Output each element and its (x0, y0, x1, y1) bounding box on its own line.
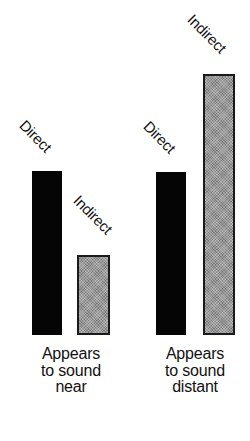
caption-distant: Appears to sound distant (145, 346, 245, 396)
bar-label-indirect-distant: Indirect (185, 11, 229, 55)
bar-direct-near (32, 171, 62, 335)
caption-near-line-2: to sound (21, 363, 121, 380)
bar-indirect-near (77, 255, 110, 335)
bar-label-indirect-near: Indirect (71, 192, 115, 236)
bar-direct-distant (156, 172, 186, 335)
caption-distant-line-1: Appears (145, 346, 245, 363)
caption-distant-line-2: to sound (145, 363, 245, 380)
caption-near-line-3: near (21, 379, 121, 396)
caption-near: Appears to sound near (21, 346, 121, 396)
caption-near-line-1: Appears (21, 346, 121, 363)
caption-distant-line-3: distant (145, 379, 245, 396)
bar-chart: Direct Indirect Appears to sound near Di… (0, 0, 250, 441)
bar-label-direct-near: Direct (17, 117, 54, 154)
bar-label-direct-distant: Direct (141, 118, 178, 155)
bar-indirect-distant (203, 74, 235, 335)
